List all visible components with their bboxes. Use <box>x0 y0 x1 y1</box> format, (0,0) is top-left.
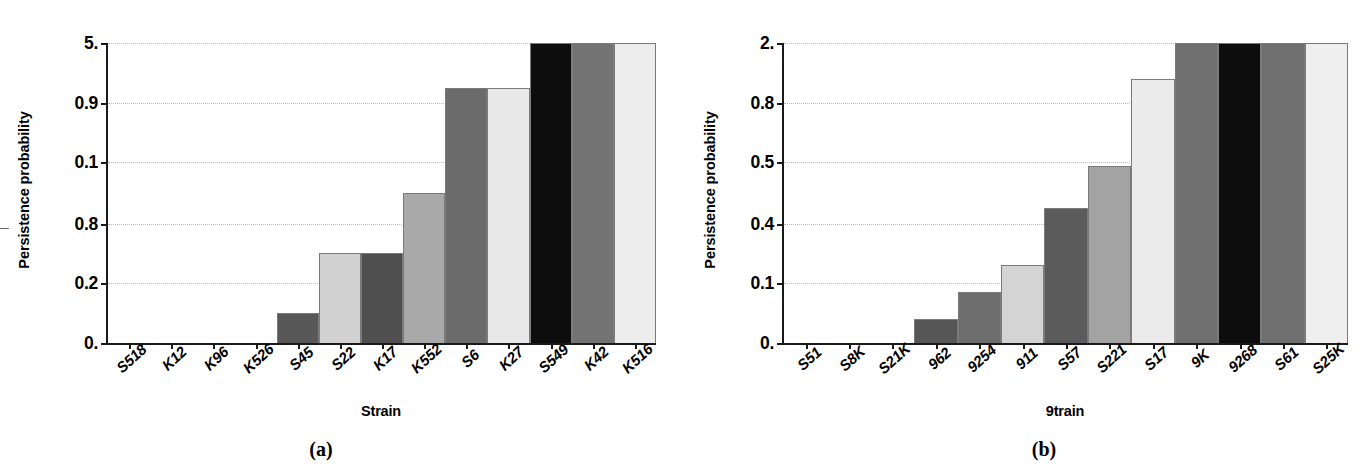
x-tick-label: K12 <box>159 343 190 374</box>
x-tick-label: S17 <box>1141 343 1172 373</box>
x-tick-label: S57 <box>1054 343 1085 373</box>
bar <box>361 253 403 343</box>
bar <box>445 88 487 343</box>
y-tick-label: 0.8 <box>751 92 774 113</box>
panel-b: Persistence probability 2.0.80.50.40.10.… <box>686 0 1372 474</box>
bar <box>1218 43 1261 343</box>
y-tick-label: 0.8 <box>75 213 98 234</box>
panel-b-plot-wrapper: Persistence probability 2.0.80.50.40.10.… <box>686 0 1372 474</box>
bar <box>319 253 361 343</box>
panel-a-x-axis-label: Strain <box>106 403 656 419</box>
bar-slot <box>445 43 487 343</box>
bar-slot <box>487 43 529 343</box>
bar-slot <box>1218 43 1261 343</box>
bar-slot <box>530 43 572 343</box>
y-tick-mark <box>777 283 784 285</box>
bar <box>1088 166 1131 343</box>
bar-slot <box>192 43 234 343</box>
y-tick-mark <box>101 343 108 345</box>
bar-slot <box>914 43 957 343</box>
panel-b-y-axis-label: Persistence probability <box>700 35 720 345</box>
panel-a-y-axis-label: Persistence probability <box>14 35 34 345</box>
bar-slot <box>784 43 827 343</box>
bar-slot <box>958 43 1001 343</box>
bar <box>914 319 957 343</box>
bar-slot <box>1044 43 1087 343</box>
bar <box>1001 265 1044 343</box>
y-tick-mark <box>101 224 108 226</box>
x-tick-label: S21K <box>875 340 914 377</box>
x-tick-label: S549 <box>534 341 571 377</box>
y-tick-label: 2. <box>760 33 774 54</box>
x-tick-label: S518 <box>113 341 150 377</box>
y-tick-label: 0.1 <box>751 273 774 294</box>
bar-slot <box>827 43 870 343</box>
y-tick-label: 0.5 <box>751 152 774 173</box>
bar-slot <box>319 43 361 343</box>
bar <box>1175 43 1218 343</box>
y-tick-label: 0.1 <box>75 152 98 173</box>
x-tick-label: S45 <box>285 343 316 373</box>
x-tick-label: S6 <box>458 346 483 371</box>
bar-slot <box>614 43 656 343</box>
panel-a-plot-area: 5.0.90.10.80.20. S518K12K96K526S45S22K17… <box>106 43 656 345</box>
bar-slot <box>1261 43 1304 343</box>
bar <box>277 313 319 343</box>
bar-slot <box>1175 43 1218 343</box>
panel-a-bar-group <box>108 43 656 343</box>
x-tick-label: S25K <box>1309 340 1348 377</box>
figure-two-panel-bar-charts: Persistence probability 5.0.90.10.80.20.… <box>0 0 1372 474</box>
y-tick-mark <box>777 343 784 345</box>
bar <box>1044 208 1087 343</box>
y-tick-label: 0.9 <box>75 92 98 113</box>
bar-slot <box>1088 43 1131 343</box>
y-tick-label: 0. <box>84 333 98 354</box>
bar <box>1305 43 1348 343</box>
y-tick-mark <box>101 283 108 285</box>
y-tick-mark <box>777 224 784 226</box>
x-tick-label: K552 <box>408 340 445 376</box>
bar <box>614 43 656 343</box>
panel-a: Persistence probability 5.0.90.10.80.20.… <box>0 0 686 474</box>
bar-slot <box>150 43 192 343</box>
x-tick-label: S8K <box>836 342 869 374</box>
y-tick-mark <box>101 43 108 45</box>
panel-a-plot-wrapper: Persistence probability 5.0.90.10.80.20.… <box>0 0 686 474</box>
y-tick-mark <box>777 43 784 45</box>
y-tick-mark <box>777 162 784 164</box>
x-tick-label: 9254 <box>964 341 1000 375</box>
bar-slot <box>871 43 914 343</box>
x-tick-label: 911 <box>1012 344 1041 372</box>
y-tick-mark <box>101 103 108 105</box>
bar-slot <box>277 43 319 343</box>
y-tick-mark <box>777 103 784 105</box>
x-tick-label: K17 <box>369 343 400 374</box>
x-tick-label: S22 <box>328 343 359 373</box>
bar <box>572 43 614 343</box>
bar <box>530 43 572 343</box>
x-tick-label: 9268 <box>1224 341 1260 375</box>
y-tick-label: 0.2 <box>75 273 98 294</box>
bar <box>487 88 529 343</box>
bar-slot <box>1131 43 1174 343</box>
y-tick-label: 0. <box>760 333 774 354</box>
y-tick-label: 5. <box>84 33 98 54</box>
bar <box>1131 79 1174 343</box>
bar-slot <box>361 43 403 343</box>
x-tick-label: K42 <box>580 343 611 374</box>
panel-b-x-axis-label: 9train <box>782 403 1348 419</box>
x-tick-label: S221 <box>1093 341 1130 377</box>
bar-slot <box>234 43 276 343</box>
x-tick-label: 9K <box>1187 346 1212 371</box>
panel-a-caption: (a) <box>0 438 686 461</box>
bar <box>958 292 1001 343</box>
bar-slot <box>572 43 614 343</box>
page-edge-mark <box>0 228 9 229</box>
x-tick-label: K516 <box>618 340 655 376</box>
bar-slot <box>108 43 150 343</box>
x-tick-label: K27 <box>496 343 527 374</box>
panel-b-bar-group <box>784 43 1348 343</box>
panel-b-plot-area: 2.0.80.50.40.10. S51S8KS21K9629254911S57… <box>782 43 1348 345</box>
panel-b-caption: (b) <box>686 438 1372 461</box>
bar-slot <box>403 43 445 343</box>
